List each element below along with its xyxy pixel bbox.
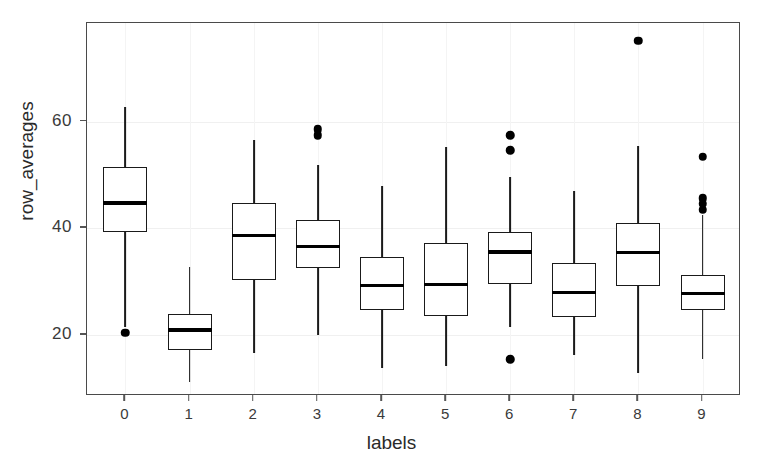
whisker-lower bbox=[509, 284, 511, 328]
box-iqr bbox=[552, 263, 596, 317]
x-tick-label: 5 bbox=[441, 405, 449, 422]
box-iqr bbox=[103, 167, 147, 233]
outlier-point bbox=[314, 125, 323, 134]
whisker-upper bbox=[317, 165, 319, 220]
y-tick-label: 20 bbox=[20, 324, 72, 344]
median-line bbox=[103, 201, 147, 204]
box-iqr bbox=[424, 243, 468, 316]
x-tick-mark bbox=[188, 395, 190, 401]
box-iqr bbox=[296, 220, 340, 267]
x-tick-label: 0 bbox=[120, 405, 128, 422]
x-tick-mark bbox=[316, 395, 318, 401]
y-axis-label: row_averages bbox=[16, 41, 38, 281]
x-tick-mark bbox=[444, 395, 446, 401]
x-tick-label: 3 bbox=[313, 405, 321, 422]
median-line bbox=[488, 250, 532, 253]
whisker-lower bbox=[125, 232, 127, 326]
whisker-lower bbox=[573, 317, 575, 355]
box-iqr bbox=[232, 203, 276, 280]
plot-frame bbox=[86, 22, 740, 395]
median-line bbox=[296, 245, 340, 248]
x-tick-label: 7 bbox=[569, 405, 577, 422]
whisker-upper bbox=[381, 186, 383, 257]
x-tick-mark bbox=[252, 395, 254, 401]
whisker-lower bbox=[638, 286, 640, 373]
x-axis-label: labels bbox=[0, 432, 783, 454]
outlier-point bbox=[506, 355, 515, 364]
x-tick-label: 9 bbox=[697, 405, 705, 422]
x-tick-label: 1 bbox=[184, 405, 192, 422]
gridline-horizontal bbox=[87, 122, 739, 123]
x-tick-label: 8 bbox=[633, 405, 641, 422]
x-tick-label: 2 bbox=[249, 405, 257, 422]
box-iqr bbox=[168, 314, 212, 349]
x-tick-mark bbox=[701, 395, 703, 401]
outlier-point bbox=[698, 152, 707, 161]
whisker-lower bbox=[702, 310, 704, 360]
x-tick-mark bbox=[508, 395, 510, 401]
x-tick-mark bbox=[380, 395, 382, 401]
outlier-point bbox=[506, 146, 515, 155]
whisker-upper bbox=[125, 107, 127, 167]
whisker-lower bbox=[445, 316, 447, 366]
y-tick-mark bbox=[80, 226, 86, 228]
whisker-upper bbox=[638, 146, 640, 223]
median-line bbox=[616, 251, 660, 254]
median-line bbox=[168, 328, 212, 331]
y-tick-mark bbox=[80, 120, 86, 122]
whisker-upper bbox=[573, 191, 575, 263]
whisker-lower bbox=[317, 268, 319, 336]
x-tick-mark bbox=[124, 395, 126, 401]
whisker-upper bbox=[189, 267, 191, 315]
whisker-lower bbox=[253, 280, 255, 352]
median-line bbox=[360, 284, 404, 287]
median-line bbox=[232, 234, 276, 237]
x-tick-label: 4 bbox=[377, 405, 385, 422]
median-line bbox=[681, 292, 725, 295]
outlier-point bbox=[634, 36, 643, 45]
median-line bbox=[424, 283, 468, 286]
outlier-point bbox=[698, 194, 707, 203]
x-tick-mark bbox=[572, 395, 574, 401]
whisker-upper bbox=[445, 147, 447, 242]
whisker-upper bbox=[702, 215, 704, 274]
whisker-lower bbox=[381, 310, 383, 368]
y-tick-mark bbox=[80, 333, 86, 335]
outlier-point bbox=[506, 131, 515, 140]
boxplot-chart: 2040600123456789 row_averages labels bbox=[0, 0, 783, 463]
x-tick-mark bbox=[637, 395, 639, 401]
median-line bbox=[552, 291, 596, 294]
whisker-upper bbox=[253, 140, 255, 203]
whisker-upper bbox=[509, 177, 511, 232]
whisker-lower bbox=[189, 350, 191, 382]
plot-area bbox=[87, 23, 739, 394]
x-tick-label: 6 bbox=[505, 405, 513, 422]
outlier-point bbox=[121, 328, 130, 337]
box-iqr bbox=[488, 232, 532, 284]
